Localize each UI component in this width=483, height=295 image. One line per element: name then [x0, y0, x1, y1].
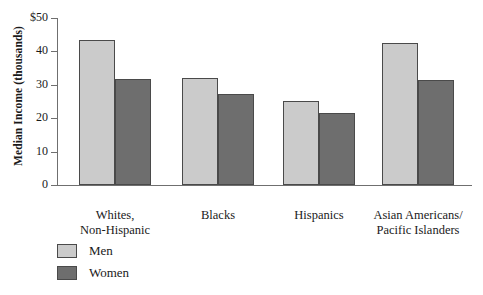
y-tick-20: 20 [51, 118, 57, 119]
y-tick-10: 10 [51, 152, 57, 153]
y-tick-40: 40 [51, 51, 57, 52]
legend: MenWomen [57, 240, 129, 284]
y-axis-line [57, 18, 58, 185]
category-label-line2: Non-Hispanic [55, 223, 175, 238]
bar-group-3 [382, 18, 454, 185]
y-tick-mark [51, 185, 57, 186]
category-label-0: Whites,Non-Hispanic [55, 208, 175, 238]
legend-swatch-women [57, 266, 77, 280]
y-tick-mark [51, 85, 57, 86]
y-tick-mark [51, 152, 57, 153]
bar-women-3 [418, 80, 454, 185]
legend-label: Women [89, 265, 129, 281]
bar-women-2 [319, 113, 355, 185]
legend-swatch-men [57, 244, 77, 258]
y-tick-label: 10 [36, 144, 48, 159]
y-tick-mark [51, 51, 57, 52]
bar-group-2 [283, 18, 355, 185]
bar-group-1 [182, 18, 254, 185]
bar-group-0 [79, 18, 151, 185]
category-label-3: Asian Americans/Pacific Islanders [358, 208, 478, 238]
bar-men-1 [182, 78, 218, 185]
bar-men-2 [283, 101, 319, 185]
category-label-line2: Pacific Islanders [358, 223, 478, 238]
x-axis-line [57, 185, 472, 186]
y-tick-mark [51, 18, 57, 19]
bar-women-0 [115, 79, 151, 185]
y-axis-title: Median Income (thousands) [12, 6, 24, 186]
bar-men-3 [382, 43, 418, 185]
y-tick-label: 40 [36, 43, 48, 58]
bar-men-0 [79, 40, 115, 185]
y-tick-30: 30 [51, 85, 57, 86]
y-tick-label: 0 [42, 177, 48, 192]
y-tick-50: $50 [51, 18, 57, 19]
bar-women-1 [218, 94, 254, 185]
legend-item-women: Women [57, 262, 129, 284]
category-label-line1: Asian Americans/ [358, 208, 478, 223]
y-tick-label: 30 [36, 77, 48, 92]
legend-item-men: Men [57, 240, 129, 262]
legend-label: Men [89, 243, 113, 259]
y-tick-label: $50 [30, 10, 48, 25]
y-tick-mark [51, 118, 57, 119]
y-tick-label: 20 [36, 110, 48, 125]
plot-area: $50403020100 Whites,Non-HispanicBlacksHi… [57, 18, 472, 185]
category-label-line1: Whites, [55, 208, 175, 223]
bar-chart-figure: Median Income (thousands) $50403020100 W… [0, 0, 483, 295]
y-tick-0: 0 [51, 185, 57, 186]
